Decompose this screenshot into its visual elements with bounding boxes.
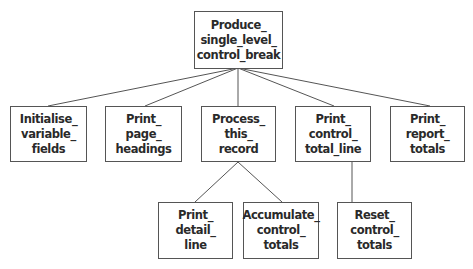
node-label-line: Print_ <box>410 112 445 127</box>
connector-root-print-headings <box>145 68 238 106</box>
structure-chart-diagram: Produce_ single_level_ control_break Ini… <box>0 0 473 269</box>
node-label-line: Print_ <box>126 112 161 127</box>
node-label-line: totals <box>263 238 298 253</box>
node-label-line: variable_ <box>21 127 76 142</box>
node-reset-control-totals: Reset_ control_ totals <box>337 202 412 259</box>
node-accumulate-control-totals: Accumulate_ control_ totals <box>243 202 319 259</box>
node-label-line: single_level_ <box>200 33 276 48</box>
node-label-line: fields <box>32 142 65 157</box>
node-label-line: control_ <box>257 223 305 238</box>
node-label-line: totals <box>410 142 445 157</box>
node-label-line: control_ <box>309 127 357 142</box>
node-label-line: line <box>184 238 206 253</box>
node-label-line: record <box>219 142 259 157</box>
node-print-detail-line: Print_ detail_ line <box>158 202 233 259</box>
node-label-line: report_ <box>406 127 450 142</box>
node-label-line: total_line <box>305 142 361 157</box>
node-label-line: Reset_ <box>354 208 394 223</box>
node-label-line: Produce_ <box>211 18 267 33</box>
node-label-line: control_break <box>197 48 281 63</box>
node-produce-single-level-control-break: Produce_ single_level_ control_break <box>194 11 283 69</box>
node-label-line: Accumulate_ <box>242 208 319 223</box>
connector-root-print-control-total <box>238 68 334 106</box>
node-label-line: control_ <box>350 223 398 238</box>
node-label-line: page_ <box>126 127 162 142</box>
node-label-line: Print_ <box>315 112 350 127</box>
node-initialise-variable-fields: Initialise_ variable_ fields <box>10 106 87 162</box>
connector-root-print-report-totals <box>238 68 430 106</box>
node-label-line: headings <box>116 142 172 157</box>
node-label-line: Initialise_ <box>20 112 78 127</box>
node-print-page-headings: Print_ page_ headings <box>105 106 182 162</box>
node-process-this-record: Process_ this_ record <box>201 106 276 162</box>
node-print-report-totals: Print_ report_ totals <box>390 106 465 162</box>
node-label-line: Print_ <box>178 208 213 223</box>
node-label-line: Process_ <box>212 112 265 127</box>
node-label-line: detail_ <box>175 223 215 238</box>
connector-process-accumulate <box>238 162 282 202</box>
node-print-control-total-line: Print_ control_ total_line <box>295 106 371 162</box>
connector-process-print-detail <box>195 162 238 202</box>
node-label-line: totals <box>357 238 392 253</box>
node-label-line: this_ <box>224 127 252 142</box>
connector-root-initialise <box>48 68 238 106</box>
